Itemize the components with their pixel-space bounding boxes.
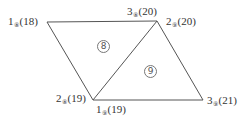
- edge-right: [157, 21, 203, 100]
- element-subscript: ⑨: [213, 101, 218, 107]
- local-node-number: 3: [207, 94, 213, 106]
- element-9-label: 9: [144, 65, 157, 78]
- node-label-bl-elem9: 1⑨(19): [96, 103, 126, 119]
- element-subscript: ⑨: [172, 22, 177, 28]
- local-node-number: 1: [8, 15, 14, 27]
- element-8-label: 8: [97, 40, 110, 53]
- node-label-tr-elem8: 3⑧(20): [127, 5, 157, 21]
- global-node-number: (20): [178, 15, 196, 27]
- node-label-tr-elem9: 2⑨(20): [166, 15, 196, 31]
- global-node-number: (20): [139, 5, 157, 17]
- local-node-number: 1: [96, 103, 102, 115]
- global-node-number: (18): [20, 15, 38, 27]
- local-node-number: 2: [56, 92, 62, 104]
- global-node-number: (19): [68, 92, 86, 104]
- local-node-number: 2: [166, 15, 172, 27]
- element-subscript: ⑨: [102, 110, 107, 116]
- node-label-br: 3⑨(21): [207, 94, 237, 110]
- edge-left: [47, 22, 93, 100]
- global-node-number: (19): [108, 103, 126, 115]
- element-subscript: ⑧: [133, 12, 138, 18]
- element-subscript: ⑧: [14, 22, 19, 28]
- edge-top: [47, 21, 157, 22]
- local-node-number: 3: [127, 5, 133, 17]
- node-label-tl: 1⑧(18): [8, 15, 38, 31]
- global-node-number: (21): [219, 94, 237, 106]
- element-subscript: ⑧: [62, 99, 67, 105]
- edge-diagonal: [93, 21, 157, 100]
- node-label-bl-elem8: 2⑧(19): [56, 92, 86, 108]
